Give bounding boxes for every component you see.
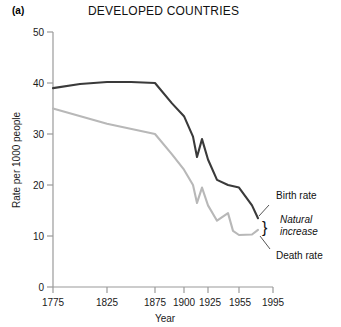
x-tick-label-1995: 1995 — [262, 297, 285, 308]
annotation-natural-increase-line1: Natural — [280, 214, 313, 225]
series-line-death-rate — [53, 109, 258, 236]
annotation-natural-increase-line2: increase — [280, 226, 318, 237]
x-tick-label-1825: 1825 — [96, 297, 119, 308]
x-axis-ticks — [53, 287, 273, 293]
x-tick-label-1900: 1900 — [173, 297, 196, 308]
y-axis-label: Rate per 1000 people — [11, 111, 22, 208]
annotation-birth-rate: Birth rate — [276, 190, 317, 201]
x-axis-label: Year — [155, 313, 176, 324]
annotation-death-rate: Death rate — [276, 250, 323, 261]
y-tick-label-10: 10 — [33, 231, 45, 242]
x-tick-label-1925: 1925 — [199, 297, 222, 308]
y-tick-label-50: 50 — [33, 27, 45, 38]
y-tick-label-30: 30 — [33, 129, 45, 140]
x-tick-label-1875: 1875 — [144, 297, 167, 308]
y-tick-label-0: 0 — [38, 282, 44, 293]
birth-rate-leader-line — [259, 205, 269, 216]
x-tick-label-1775: 1775 — [42, 297, 65, 308]
y-tick-label-40: 40 — [33, 78, 45, 89]
x-tick-label-1955: 1955 — [229, 297, 252, 308]
series-line-birth-rate — [53, 82, 258, 218]
natural-increase-brace: } — [262, 219, 268, 236]
death-rate-leader-line — [260, 236, 270, 249]
line-chart-plot: 50 40 30 20 10 0 Rate per 1000 people 17… — [0, 0, 341, 327]
chart-figure: (a) DEVELOPED COUNTRIES 50 40 30 20 10 0… — [0, 0, 341, 327]
y-axis-ticks — [47, 32, 53, 287]
y-tick-label-20: 20 — [33, 180, 45, 191]
